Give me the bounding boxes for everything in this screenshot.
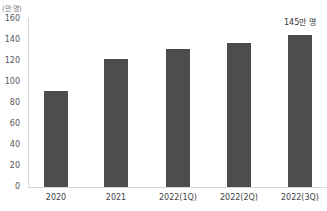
x-tick-label: 2022(1Q) xyxy=(148,193,208,202)
x-tick-label: 2021 xyxy=(86,193,146,202)
bar-2022(3Q) xyxy=(288,35,312,187)
y-axis-line xyxy=(28,18,29,187)
x-tick-label: 2022(2Q) xyxy=(209,193,269,202)
bar-2022(1Q) xyxy=(166,49,190,187)
y-tick-label: 40 xyxy=(0,140,20,149)
data-label-last: 145만 명 xyxy=(284,16,316,27)
y-tick-label: 80 xyxy=(0,98,20,107)
bar-2021 xyxy=(104,59,128,187)
bar-2022(2Q) xyxy=(227,43,251,187)
y-tick-label: 140 xyxy=(0,35,20,44)
y-tick-label: 160 xyxy=(0,14,20,23)
x-axis-line xyxy=(28,187,327,188)
y-tick-label: 0 xyxy=(0,182,20,191)
bar-2020 xyxy=(44,91,68,187)
y-tick-label: 60 xyxy=(0,119,20,128)
y-tick-label: 100 xyxy=(0,77,20,86)
x-tick-label: 2020 xyxy=(26,193,86,202)
y-tick-label: 20 xyxy=(0,161,20,170)
y-axis-unit-label: (만 명) xyxy=(2,3,22,13)
y-tick-label: 120 xyxy=(0,56,20,65)
x-tick-label: 2022(3Q) xyxy=(270,193,327,202)
